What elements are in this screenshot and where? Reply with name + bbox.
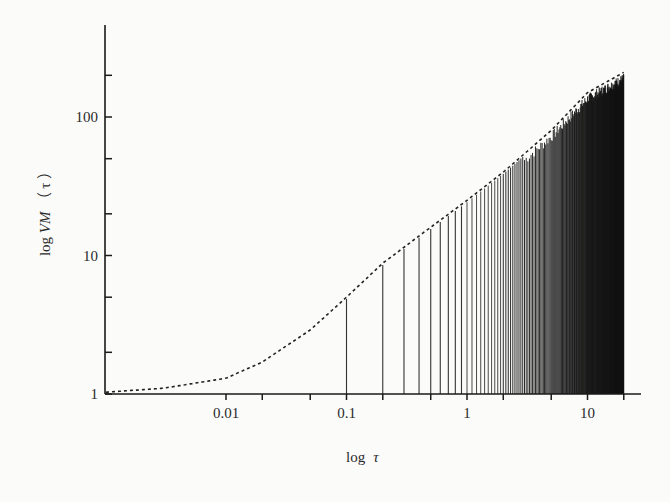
x-axis-title: logτ [346, 449, 379, 465]
spike-series [347, 74, 624, 394]
chart: 0.010.1110 110100 logτ log VM（ τ ） [0, 0, 670, 502]
x-tick-label: 10 [580, 405, 595, 421]
x-tick-label: 0.1 [337, 405, 356, 421]
y-tick-label: 10 [83, 248, 98, 264]
y-tick-labels: 110100 [76, 109, 99, 402]
y-axis-title: log VM（ τ ） [37, 164, 53, 256]
y-tick-label: 100 [76, 109, 99, 125]
y-ticks [105, 75, 112, 394]
y-tick-label: 1 [91, 386, 99, 402]
x-tick-label: 1 [463, 405, 471, 421]
x-ticks [226, 394, 624, 400]
x-tick-labels: 0.010.1110 [213, 405, 595, 421]
x-tick-label: 0.01 [213, 405, 239, 421]
